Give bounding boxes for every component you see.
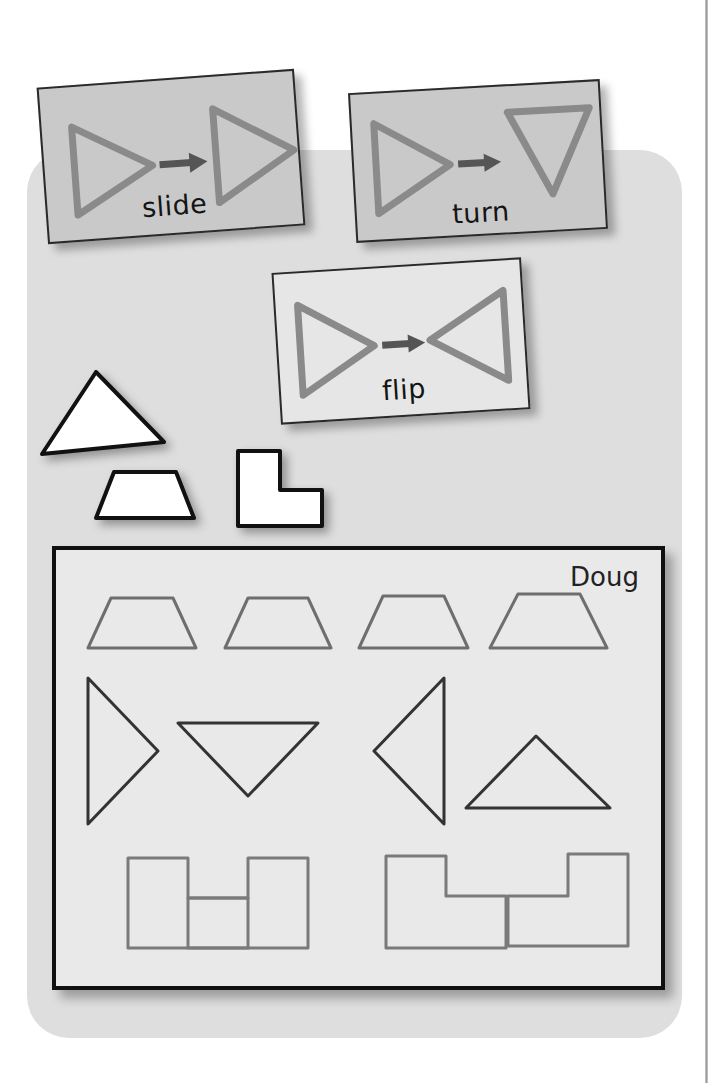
triangle-pointing-down-after <box>507 108 594 196</box>
white-triangle-manipulative[interactable] <box>38 368 168 458</box>
worksheet-shape-grid <box>56 550 661 986</box>
white-trapezoid-manipulative[interactable] <box>92 466 200 524</box>
l-shape-notch-top-right-3 <box>386 856 506 948</box>
illustration-stage: slide turn flip <box>0 0 714 1083</box>
student-worksheet[interactable]: Doug <box>52 546 665 990</box>
l-shape-notch-top-left-4 <box>508 854 628 946</box>
trapezoid-upright-1 <box>88 598 196 648</box>
worksheet-triangle-row <box>88 678 610 824</box>
worksheet-trapezoid-row <box>88 594 607 648</box>
triangle-pointing-up <box>466 736 610 808</box>
transformation-card-flip[interactable]: flip <box>271 257 530 424</box>
triangle-pointing-left <box>374 678 444 824</box>
right-arrow-icon <box>382 334 426 355</box>
page-edge-rule <box>705 0 708 1083</box>
white-l-shape-manipulative[interactable] <box>232 446 327 531</box>
trapezoid-upright-4 <box>490 594 607 648</box>
triangle-pointing-right <box>88 678 158 824</box>
right-arrow-icon <box>159 151 208 174</box>
trapezoid-upright-2 <box>225 598 331 648</box>
trapezoid-upright-3 <box>359 596 468 648</box>
transformation-card-turn[interactable]: turn <box>348 79 608 243</box>
transformation-card-slide[interactable]: slide <box>37 69 306 244</box>
right-arrow-icon <box>458 153 502 173</box>
worksheet-lshape-row <box>128 854 628 948</box>
triangle-pointing-down <box>178 723 318 796</box>
